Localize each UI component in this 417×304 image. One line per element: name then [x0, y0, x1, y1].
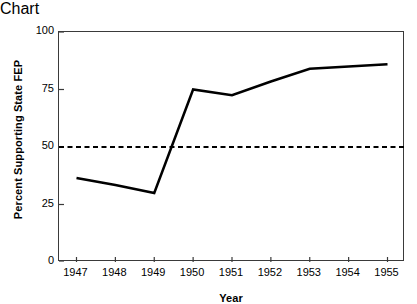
plot-svg	[59, 32, 405, 262]
x-axis-label: Year	[58, 292, 404, 304]
x-tick-label: 1947	[63, 267, 87, 278]
x-tick-label: 1955	[374, 267, 398, 278]
x-tick-label: 1951	[219, 267, 243, 278]
y-tick-label: 50	[22, 140, 54, 151]
chart-figure: Percent Supporting State FEP 0255075100 …	[0, 18, 417, 304]
data-series	[76, 64, 387, 193]
y-axis-tick-labels: 0255075100	[22, 18, 54, 304]
x-tick-label: 1954	[335, 267, 359, 278]
x-tick-label: 1953	[297, 267, 321, 278]
x-axis-ticks	[76, 257, 387, 262]
y-tick-label: 25	[22, 198, 54, 209]
y-tick-label: 0	[22, 255, 54, 266]
x-axis-tick-labels: 194719481949195019511952195319541955	[58, 267, 404, 283]
y-tick-label: 75	[22, 83, 54, 94]
plot-area	[58, 31, 404, 261]
x-tick-label: 1952	[258, 267, 282, 278]
y-tick-label: 100	[22, 25, 54, 36]
x-tick-label: 1948	[102, 267, 126, 278]
x-tick-label: 1950	[180, 267, 204, 278]
x-tick-label: 1949	[141, 267, 165, 278]
